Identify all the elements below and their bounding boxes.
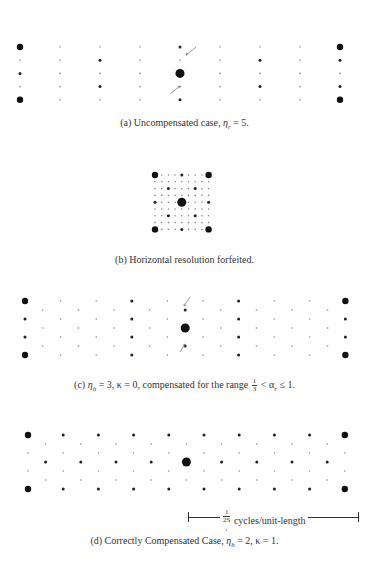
medium-spectral-point (344, 336, 347, 339)
medium-spectral-point (203, 434, 206, 437)
small-spectral-point (188, 222, 190, 224)
medium-spectral-point (255, 461, 258, 464)
small-spectral-point (220, 309, 222, 311)
small-spectral-point (188, 195, 190, 197)
small-spectral-point (149, 345, 151, 347)
medium-spectral-point (99, 85, 102, 88)
small-spectral-point (139, 46, 141, 48)
small-spectral-point (161, 195, 163, 197)
small-spectral-point (168, 452, 170, 454)
small-spectral-point (219, 99, 221, 101)
small-spectral-point (154, 181, 156, 183)
small-spectral-point (273, 354, 275, 356)
small-spectral-point (59, 86, 61, 88)
caption-a-text: (a) Uncompensated case, (120, 117, 223, 128)
small-spectral-point (188, 201, 190, 203)
small-spectral-point (60, 300, 62, 302)
medium-spectral-point (273, 434, 276, 437)
dot-lattice-plot (0, 0, 369, 565)
small-spectral-point (344, 452, 346, 454)
small-spectral-point (339, 73, 341, 75)
small-spectral-point (99, 99, 101, 101)
caption-c: (c) ηh = 3, κ = 0, compensated for the r… (0, 378, 369, 393)
small-spectral-point (256, 479, 258, 481)
small-spectral-point (201, 188, 203, 190)
small-spectral-point (274, 452, 276, 454)
small-spectral-point (181, 215, 183, 217)
medium-spectral-point (238, 434, 241, 437)
small-spectral-point (194, 222, 196, 224)
small-spectral-point (139, 73, 141, 75)
small-spectral-point (299, 46, 301, 48)
small-spectral-point (113, 345, 115, 347)
medium-spectral-point (132, 434, 135, 437)
small-spectral-point (202, 318, 204, 320)
large-spectral-point (342, 352, 348, 358)
small-spectral-point (299, 99, 301, 101)
small-spectral-point (174, 208, 176, 210)
small-spectral-point (154, 222, 156, 224)
small-spectral-point (201, 222, 203, 224)
small-spectral-point (99, 46, 101, 48)
small-spectral-point (221, 479, 223, 481)
medium-spectral-point (132, 488, 135, 491)
caption-d: (d) Correctly Compensated Case, ηh = 2, … (0, 535, 369, 549)
medium-spectral-point (273, 488, 276, 491)
small-spectral-point (220, 345, 222, 347)
small-spectral-point (154, 195, 156, 197)
small-spectral-point (181, 208, 183, 210)
small-spectral-point (98, 470, 100, 472)
medium-spectral-point (179, 98, 182, 101)
scale-bar-label: 12Sr cycles/unit-length (220, 509, 308, 533)
medium-spectral-point (237, 318, 240, 321)
medium-spectral-point (344, 318, 347, 321)
small-spectral-point (274, 470, 276, 472)
caption-d-text: (d) Correctly Compensated Case, (90, 535, 226, 546)
medium-spectral-point (167, 187, 170, 190)
medium-spectral-point (308, 488, 311, 491)
medium-spectral-point (207, 201, 210, 204)
small-spectral-point (299, 86, 301, 88)
small-spectral-point (168, 208, 170, 210)
small-spectral-point (219, 73, 221, 75)
large-spectral-point (176, 69, 185, 78)
large-spectral-point (182, 458, 191, 467)
small-spectral-point (208, 188, 210, 190)
small-spectral-point (238, 470, 240, 472)
medium-spectral-point (184, 309, 187, 312)
small-spectral-point (113, 309, 115, 311)
small-spectral-point (259, 46, 261, 48)
large-spectral-point (22, 352, 28, 358)
small-spectral-point (188, 174, 190, 176)
small-spectral-point (344, 470, 346, 472)
panel-c-lattice (22, 297, 349, 358)
medium-spectral-point (19, 72, 22, 75)
small-spectral-point (59, 59, 61, 61)
medium-spectral-point (291, 461, 294, 464)
small-spectral-point (95, 354, 97, 356)
small-spectral-point (181, 195, 183, 197)
small-spectral-point (188, 229, 190, 231)
small-spectral-point (115, 443, 117, 445)
small-spectral-point (78, 327, 80, 329)
large-spectral-point (25, 432, 31, 438)
small-spectral-point (194, 208, 196, 210)
large-spectral-point (342, 432, 348, 438)
small-spectral-point (42, 345, 44, 347)
small-spectral-point (219, 86, 221, 88)
medium-spectral-point (220, 461, 223, 464)
caption-c-middle: = 3, κ = 0, compensated for the range (96, 379, 251, 390)
medium-spectral-point (194, 187, 197, 190)
small-spectral-point (188, 181, 190, 183)
small-spectral-point (78, 345, 80, 347)
panel-d-lattice (25, 432, 348, 492)
medium-spectral-point (44, 461, 47, 464)
small-spectral-point (174, 215, 176, 217)
medium-spectral-point (130, 318, 133, 321)
small-spectral-point (174, 195, 176, 197)
small-spectral-point (95, 318, 97, 320)
large-spectral-point (342, 486, 348, 492)
small-spectral-point (78, 309, 80, 311)
medium-spectral-point (24, 336, 27, 339)
medium-spectral-point (62, 488, 65, 491)
